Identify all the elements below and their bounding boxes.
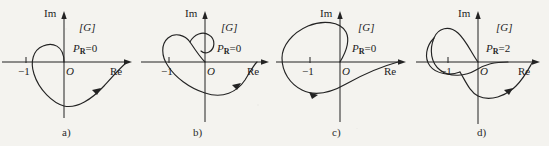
minus-one-label-a: −1 [18, 65, 30, 77]
caption-b: b) [193, 126, 202, 138]
panel-a-plot: Im Re [G] O −1 PR=0 [0, 0, 137, 146]
real-axis-a [2, 59, 132, 64]
plane-tag-a: [G] [79, 21, 96, 33]
panel-d-plot: Im Re [G] O −1 PR=2 [412, 0, 549, 146]
re-axis-label-d: Re [518, 65, 530, 77]
plane-tag-c: [G] [358, 21, 375, 33]
pr-label-d: PR=2 [485, 42, 510, 56]
pr-label-c: PR=0 [351, 42, 377, 56]
panel-c-plot: Im Re [G] O −1 PR=0 [274, 0, 412, 146]
minus-one-label-c: −1 [302, 65, 314, 77]
re-axis-label-b: Re [247, 65, 259, 77]
panel-c: Im Re [G] O −1 PR=0 [274, 0, 412, 146]
plane-tag-d: [G] [496, 21, 513, 33]
origin-label-a: O [66, 65, 74, 77]
pr-label-b: PR=0 [216, 42, 242, 56]
caption-c: c) [332, 126, 341, 138]
im-axis-label-b: Im [185, 7, 198, 19]
panel-b-plot: Im Re [G] O −1 PR=0 [137, 0, 274, 146]
origin-label-c: O [342, 65, 350, 77]
panel-d: Im Re [G] O −1 PR=2 [412, 0, 549, 146]
origin-label-b: O [207, 65, 215, 77]
nyquist-curve-d [427, 28, 532, 98]
im-axis-label-a: Im [44, 7, 57, 19]
plane-tag-b: [G] [221, 21, 238, 33]
caption-d: d) [477, 126, 486, 138]
direction-arrow-a [92, 88, 101, 95]
re-axis-label-c: Re [384, 65, 396, 77]
minus-one-label-d: −1 [440, 65, 452, 77]
caption-a: a) [62, 126, 71, 138]
origin-label-d: O [480, 65, 488, 77]
panel-b: Im Re [G] O −1 PR=0 [137, 0, 274, 146]
re-axis-label-a: Re [110, 65, 122, 77]
minus-one-label-b: −1 [161, 65, 173, 77]
nyquist-figure-group: Im Re [G] O −1 PR=0 I [0, 0, 549, 146]
panel-a: Im Re [G] O −1 PR=0 [0, 0, 137, 146]
im-axis-label-c: Im [320, 7, 333, 19]
im-axis-label-d: Im [458, 7, 471, 19]
pr-label-a: PR=0 [72, 42, 98, 56]
